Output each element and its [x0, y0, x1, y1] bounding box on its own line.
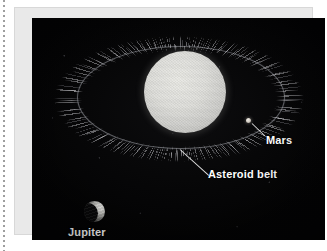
jupiter-label: Jupiter [68, 226, 106, 238]
mars-label: Mars [266, 134, 292, 146]
page-margin-dotted-rule [3, 0, 5, 251]
space-scene-image: Mars Asteroid belt Jupiter [32, 18, 325, 240]
sun-sphere [144, 51, 226, 133]
mars-dot [246, 118, 251, 123]
figure-page: Mars Asteroid belt Jupiter [0, 0, 327, 251]
asteroid-belt-label: Asteroid belt [208, 168, 277, 180]
figure-frame: Mars Asteroid belt Jupiter [15, 8, 312, 234]
jupiter-crescent [84, 201, 105, 222]
